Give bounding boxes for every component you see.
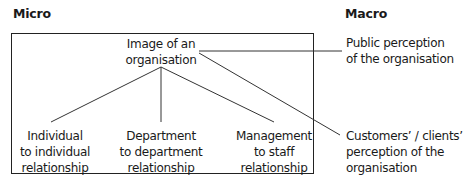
micro-node-individual: Individual to individual relationship — [12, 128, 98, 176]
node-line: relationship — [232, 160, 316, 176]
connector-to-management — [161, 67, 274, 122]
macro-node-public-perception: Public perception of the organisation — [346, 35, 454, 67]
node-line: organisation — [346, 160, 463, 176]
node-line: to staff — [232, 144, 316, 160]
center-node-image-of-organisation: Image of an organisation — [116, 36, 206, 68]
node-line: Public perception — [346, 35, 454, 51]
node-line: relationship — [118, 160, 204, 176]
node-line: to individual — [12, 144, 98, 160]
node-line: to department — [118, 144, 204, 160]
node-line: of the organisation — [346, 51, 454, 67]
macro-node-customer-perception: Customers’ / clients’ perception of the … — [346, 128, 463, 176]
node-line: perception of the — [346, 144, 463, 160]
connector-to-individual — [51, 67, 161, 122]
micro-node-department: Department to department relationship — [118, 128, 204, 176]
node-line: Customers’ / clients’ — [346, 128, 463, 144]
node-line: Individual — [12, 128, 98, 144]
center-node-line-1: Image of an — [116, 36, 206, 52]
node-line: Department — [118, 128, 204, 144]
connector-to-customer-perception — [199, 53, 340, 135]
center-node-line-2: organisation — [116, 52, 206, 68]
micro-node-management: Management to staff relationship — [232, 128, 316, 176]
node-line: relationship — [12, 160, 98, 176]
node-line: Management — [232, 128, 316, 144]
